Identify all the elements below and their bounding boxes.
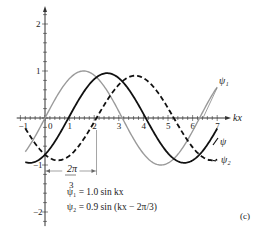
x-tick-label: 5 bbox=[166, 121, 171, 131]
x-tick-label: 4 bbox=[141, 121, 146, 131]
wave-superposition-chart: −10123456721−1−2 kx ψ₁ ψ ψ₂ 2π 3 ψ₁ = 1.… bbox=[0, 0, 266, 239]
x-axis-arrow-icon bbox=[225, 116, 231, 120]
legend-psi1: ψ₁ bbox=[219, 75, 229, 86]
y-tick-label: −2 bbox=[33, 207, 43, 217]
y-tick-label: 1 bbox=[36, 66, 41, 76]
arrowhead-right-icon bbox=[92, 169, 96, 173]
arrowhead-left-icon bbox=[46, 169, 50, 173]
x-tick-label: 1 bbox=[68, 121, 73, 131]
x-tick-label: 3 bbox=[117, 121, 122, 131]
leader-psi1 bbox=[203, 88, 217, 118]
equation-psi1: ψ₁ = 1.0 sin kx bbox=[67, 187, 124, 197]
axes: −10123456721−1−2 bbox=[17, 6, 231, 226]
phase-shift-numerator: 2π bbox=[67, 163, 78, 174]
x-axis-label: kx bbox=[233, 112, 242, 123]
y-tick-label: 2 bbox=[36, 19, 41, 29]
legend-psi2: ψ₂ bbox=[221, 154, 231, 165]
leader-psi bbox=[213, 138, 218, 145]
legend-psi: ψ bbox=[220, 136, 227, 147]
panel-label: (c) bbox=[240, 211, 250, 221]
equation-psi2: ψ₂ = 0.9 sin (kx − 2π/3) bbox=[67, 202, 157, 213]
x-tick-label: 0 bbox=[48, 121, 53, 131]
y-axis-arrow-icon bbox=[43, 6, 47, 12]
